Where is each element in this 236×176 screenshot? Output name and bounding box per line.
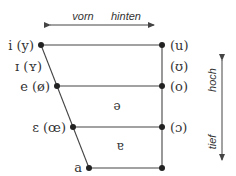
dot-close-mid-back: [159, 83, 165, 89]
vowel-mid-central: ə: [113, 99, 120, 113]
vowel-close-mid-front: e (ø): [20, 79, 50, 94]
vowel-open-mid-front: ɛ (œ): [32, 120, 66, 135]
dot-open-back: [159, 165, 165, 171]
vowel-trapezoid-diagram: vorn hinten hoch tief i (y) ɪ (ʏ) e (ø) …: [0, 0, 236, 176]
vowel-near-close-front: ɪ (ʏ): [15, 59, 42, 74]
dot-open-mid-front: [70, 124, 76, 130]
vowel-close-back: (u): [170, 38, 189, 53]
dot-open-front: [86, 165, 92, 171]
vowel-close-mid-back: (o): [170, 79, 188, 94]
dot-close-mid-front: [54, 83, 60, 89]
vowel-close-front: i (y): [8, 38, 34, 53]
dot-close-back: [159, 42, 165, 48]
label-hinten: hinten: [111, 10, 141, 22]
vowel-near-open-central: ɐ: [116, 139, 123, 153]
vowel-open-front: a: [74, 160, 82, 175]
line-front: [41, 45, 89, 168]
dot-open-mid-back: [159, 124, 165, 130]
label-hoch: hoch: [206, 68, 218, 92]
label-tief: tief: [206, 134, 218, 150]
label-vorn: vorn: [72, 10, 93, 22]
vowel-near-close-back: (ʊ): [170, 59, 188, 74]
vowel-open-mid-back: (ɔ): [170, 120, 187, 135]
dot-close-front: [38, 42, 44, 48]
